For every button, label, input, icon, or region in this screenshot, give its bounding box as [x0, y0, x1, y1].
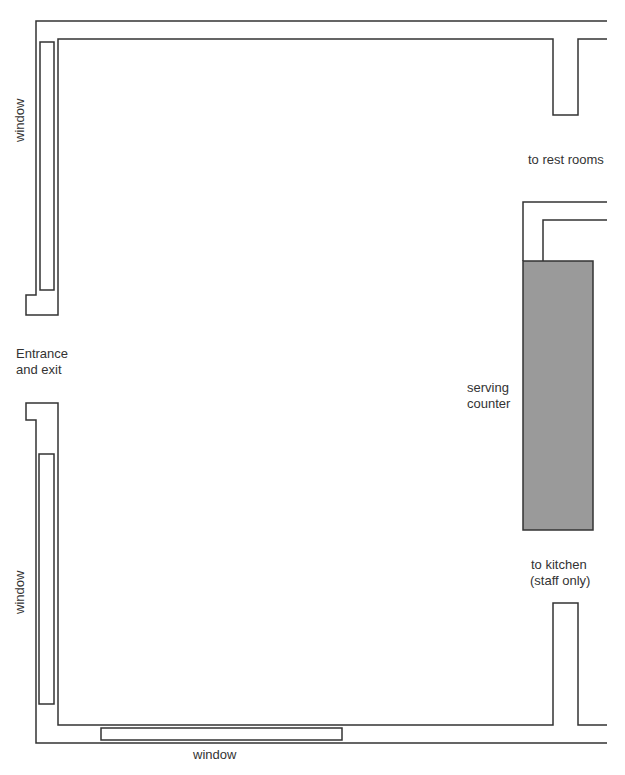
kitchen-label-line2: (staff only)	[530, 572, 590, 589]
left-bottom-window-label: window	[11, 571, 28, 614]
kitchen-label-line1: to kitchen	[531, 556, 587, 573]
bottom-window-label: window	[193, 746, 236, 763]
counter-label-line1: serving	[467, 379, 509, 396]
bottom-window	[101, 728, 342, 740]
wall-bottom-left	[26, 403, 607, 743]
entrance-label-line2: and exit	[16, 361, 62, 378]
wall-top-left	[26, 21, 607, 315]
serving-counter	[523, 261, 593, 530]
left-top-window-label: window	[11, 99, 28, 142]
left-bottom-window	[39, 454, 54, 704]
wall-rest-rooms-outer	[523, 202, 607, 261]
counter-label-line2: counter	[467, 395, 510, 412]
left-top-window	[40, 42, 54, 290]
wall-rest-rooms-inner	[543, 220, 607, 261]
rest-rooms-label: to rest rooms	[528, 151, 604, 168]
floor-plan	[0, 0, 625, 775]
entrance-label-line1: Entrance	[16, 345, 68, 362]
